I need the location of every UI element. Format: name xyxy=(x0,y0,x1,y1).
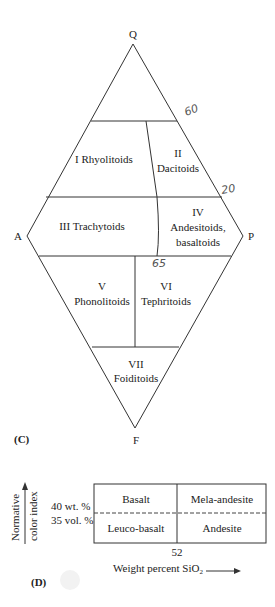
panel-d-label: (D) xyxy=(31,576,47,589)
color-index-chart: Normative color index 40 wt. % 35 vol. %… xyxy=(9,482,266,576)
vertex-q-label: Q xyxy=(129,28,137,40)
cell-andesite: Andesite xyxy=(202,522,241,534)
field-iv-name-1: Andesitoids, xyxy=(170,221,226,233)
y-axis-label-1: Normative xyxy=(9,494,21,541)
annotation-60: 60 xyxy=(183,102,201,119)
annotation-20: 20 xyxy=(220,182,236,197)
cell-mela-andesite: Mela-andesite xyxy=(191,493,253,505)
cell-leuco-basalt: Leuco-basalt xyxy=(108,522,165,534)
field-ii-name: Dacitoids xyxy=(157,162,199,174)
vertex-a-label: A xyxy=(14,230,22,242)
field-vii-numeral: VII xyxy=(128,358,144,370)
field-v-numeral: V xyxy=(98,280,106,292)
field-v-name: Phonolitoids xyxy=(74,295,130,307)
smudge-mark xyxy=(60,570,80,590)
y-axis-label-2: color index xyxy=(27,491,39,541)
field-iv-name-2: basaltoids xyxy=(176,236,220,248)
annotation-65: 65 xyxy=(152,257,166,270)
cell-basalt: Basalt xyxy=(122,493,150,505)
field-ii-numeral: II xyxy=(174,147,182,159)
field-iv-numeral: IV xyxy=(192,206,204,218)
figure-canvas: Q A P F I Rhyolitoids II Dacitoids III T… xyxy=(0,0,275,607)
field-vi-numeral: VI xyxy=(160,280,172,292)
y-axis-arrow-icon xyxy=(22,482,28,490)
x-axis-label-text: Weight percent SiO xyxy=(113,562,200,574)
field-vii-name: Foiditoids xyxy=(114,372,159,384)
field-vi-name: Tephritoids xyxy=(141,295,191,307)
x-tick-52: 52 xyxy=(172,546,183,558)
x-axis-arrow-icon xyxy=(234,568,241,574)
y-tick-vol: 35 vol. % xyxy=(51,514,93,526)
vertex-p-label: P xyxy=(248,230,254,242)
panel-c-label: (C) xyxy=(14,433,30,446)
line-p65-upper xyxy=(146,121,159,256)
field-iii-label: III Trachytoids xyxy=(59,220,125,232)
y-tick-wt: 40 wt. % xyxy=(51,500,90,512)
x-axis-subscript: 2 xyxy=(199,568,203,576)
field-i-label: I Rhyolitoids xyxy=(75,153,133,165)
x-axis-label: Weight percent SiO2 xyxy=(113,562,203,576)
vertex-f-label: F xyxy=(133,434,139,446)
